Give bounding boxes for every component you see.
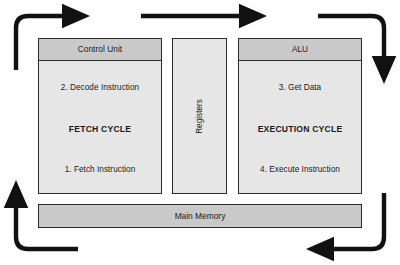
control-unit-step-fetch: 1. Fetch Instruction: [39, 165, 161, 174]
alu-header: ALU: [239, 39, 361, 61]
alu-box: ALU 3. Get Data EXECUTION CYCLE 4. Execu…: [238, 38, 362, 194]
alu-body: 3. Get Data EXECUTION CYCLE 4. Execute I…: [239, 61, 361, 193]
control-unit-cycle-label: FETCH CYCLE: [39, 124, 161, 134]
control-unit-box: Control Unit 2. Decode Instruction FETCH…: [38, 38, 162, 194]
main-memory-label: Main Memory: [175, 211, 226, 221]
alu-step-get-data: 3. Get Data: [239, 83, 361, 92]
main-memory-box: Main Memory: [38, 204, 362, 228]
registers-box: Registers: [172, 38, 227, 194]
alu-cycle-label: EXECUTION CYCLE: [239, 124, 361, 134]
alu-step-execute: 4. Execute Instruction: [239, 165, 361, 174]
control-unit-step-decode: 2. Decode Instruction: [39, 83, 161, 92]
cpu-instruction-cycle-diagram: Control Unit 2. Decode Instruction FETCH…: [0, 0, 400, 265]
control-unit-header: Control Unit: [39, 39, 161, 61]
registers-label: Registers: [195, 99, 204, 134]
control-unit-body: 2. Decode Instruction FETCH CYCLE 1. Fet…: [39, 61, 161, 193]
